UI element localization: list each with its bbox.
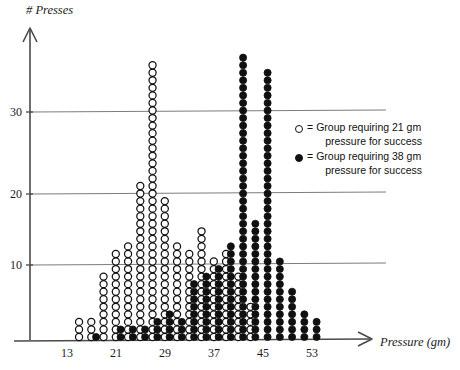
data-point xyxy=(93,333,100,340)
data-point xyxy=(161,228,168,235)
data-point xyxy=(137,198,144,205)
legend-item-open: = Group requiring 21 gmpressure for succ… xyxy=(292,121,457,148)
data-point xyxy=(100,273,107,280)
legend-open-line2: pressure for success xyxy=(316,135,422,149)
data-point xyxy=(174,273,181,280)
data-point xyxy=(227,318,234,325)
data-point xyxy=(240,296,247,303)
data-point xyxy=(240,266,247,273)
data-point xyxy=(264,77,271,84)
data-point xyxy=(149,182,156,189)
data-point xyxy=(240,145,247,152)
data-point xyxy=(125,266,132,273)
data-point xyxy=(240,77,247,84)
data-point xyxy=(174,303,181,310)
data-point xyxy=(117,333,124,340)
data-point xyxy=(227,288,234,295)
data-point xyxy=(149,107,156,114)
data-point xyxy=(174,311,181,318)
data-point xyxy=(125,243,132,250)
data-point xyxy=(264,296,271,303)
data-point xyxy=(276,296,283,303)
data-point xyxy=(240,281,247,288)
data-point xyxy=(142,326,149,333)
data-point xyxy=(240,160,247,167)
data-point xyxy=(240,213,247,220)
data-point xyxy=(149,311,156,318)
data-point xyxy=(264,84,271,91)
data-point xyxy=(264,333,271,340)
data-point xyxy=(215,333,222,340)
data-point xyxy=(264,326,271,333)
data-point xyxy=(210,258,217,265)
data-point xyxy=(240,175,247,182)
data-point xyxy=(161,198,168,205)
data-point xyxy=(149,152,156,159)
data-point xyxy=(264,167,271,174)
data-point xyxy=(137,311,144,318)
data-point xyxy=(240,250,247,257)
data-point xyxy=(252,273,259,280)
data-point xyxy=(240,152,247,159)
data-point xyxy=(125,311,132,318)
data-point xyxy=(137,318,144,325)
data-point xyxy=(301,311,308,318)
data-point xyxy=(178,333,185,340)
gridline-10 xyxy=(30,263,386,265)
data-point xyxy=(252,220,259,227)
data-point xyxy=(149,205,156,212)
data-point xyxy=(100,311,107,318)
data-point xyxy=(240,62,247,69)
data-point xyxy=(112,318,119,325)
data-point xyxy=(174,258,181,265)
data-point xyxy=(149,160,156,167)
data-point xyxy=(240,107,247,114)
data-point xyxy=(264,205,271,212)
data-point xyxy=(264,243,271,250)
data-point xyxy=(252,288,259,295)
data-point xyxy=(264,273,271,280)
data-point xyxy=(227,273,234,280)
data-point xyxy=(149,69,156,76)
data-point xyxy=(100,288,107,295)
data-point xyxy=(264,182,271,189)
data-point xyxy=(166,318,173,325)
data-point xyxy=(227,326,234,333)
data-point xyxy=(252,228,259,235)
data-point xyxy=(264,318,271,325)
data-point xyxy=(215,318,222,325)
data-point xyxy=(276,318,283,325)
data-point xyxy=(186,266,193,273)
data-point xyxy=(289,326,296,333)
data-point xyxy=(125,273,132,280)
data-point xyxy=(240,130,247,137)
data-point xyxy=(191,288,198,295)
data-point xyxy=(129,326,136,333)
data-point xyxy=(198,266,205,273)
data-point xyxy=(137,243,144,250)
y-tick-label-30: 30 xyxy=(10,105,22,119)
data-point xyxy=(149,213,156,220)
data-point xyxy=(240,122,247,129)
data-point xyxy=(198,235,205,242)
data-point xyxy=(264,235,271,242)
data-point xyxy=(240,92,247,99)
data-point xyxy=(252,243,259,250)
data-point xyxy=(240,99,247,106)
data-point xyxy=(76,326,83,333)
gridline-20 xyxy=(30,192,386,194)
data-point xyxy=(149,190,156,197)
data-point xyxy=(264,137,271,144)
data-point xyxy=(125,296,132,303)
x-tick-label-53: 53 xyxy=(306,346,318,360)
gridline-30 xyxy=(30,110,386,112)
data-point xyxy=(125,288,132,295)
data-point xyxy=(174,288,181,295)
y-axis-title: # Presses xyxy=(26,3,73,17)
data-point xyxy=(149,303,156,310)
data-point xyxy=(203,318,210,325)
data-point xyxy=(301,318,308,325)
data-point xyxy=(264,288,271,295)
data-point xyxy=(276,326,283,333)
data-point xyxy=(137,228,144,235)
